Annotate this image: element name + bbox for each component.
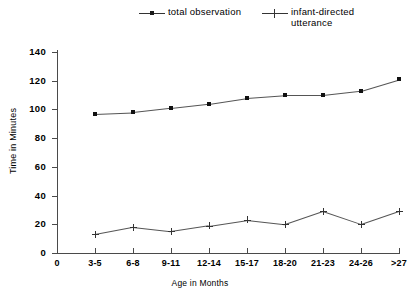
series-line-segment xyxy=(133,108,171,113)
series-line-segment xyxy=(361,79,399,91)
y-tick xyxy=(52,196,57,197)
data-point-marker-square xyxy=(245,96,249,100)
series-line-segment xyxy=(285,211,323,225)
data-point-marker-plus xyxy=(320,211,327,212)
data-point-marker-plus xyxy=(95,231,96,238)
x-tick xyxy=(57,248,58,254)
y-axis-line xyxy=(57,50,58,254)
legend-label-infant-directed-utterance: infant-directed utterance xyxy=(288,6,354,28)
y-tick xyxy=(52,52,57,53)
x-tick xyxy=(171,248,172,254)
y-tick-label: 0 xyxy=(4,247,46,258)
data-point-marker-plus xyxy=(130,227,137,228)
series-line-segment xyxy=(209,98,247,105)
y-tick xyxy=(52,138,57,139)
series-line-segment xyxy=(209,220,247,227)
x-tick-label: >27 xyxy=(376,258,411,268)
x-tick xyxy=(285,248,286,254)
legend-entry-total-observation: total observation xyxy=(139,6,241,19)
data-point-marker-square xyxy=(283,93,287,97)
data-point-marker-plus xyxy=(282,224,289,225)
chart-legend: total observation infant-directed uttera… xyxy=(0,2,405,38)
y-tick xyxy=(52,224,57,225)
data-point-marker-plus xyxy=(244,220,251,221)
data-point-marker-plus xyxy=(168,231,175,232)
data-point-marker-plus xyxy=(361,221,362,228)
data-point-marker-plus xyxy=(396,211,403,212)
x-tick xyxy=(361,248,362,254)
data-point-marker-plus xyxy=(171,228,172,235)
series-line-segment xyxy=(171,226,209,233)
x-tick xyxy=(133,248,134,254)
series-line-segment xyxy=(285,95,323,96)
x-axis-title: Age in Months xyxy=(130,278,270,288)
data-point-marker-square xyxy=(93,112,97,116)
y-tick-label: 40 xyxy=(4,190,46,201)
data-point-marker-square xyxy=(359,89,363,93)
x-tick xyxy=(399,248,400,254)
y-tick-label: 100 xyxy=(4,103,46,114)
data-point-marker-plus xyxy=(206,226,213,227)
y-tick xyxy=(52,167,57,168)
series-line-segment xyxy=(95,112,133,114)
data-point-marker-plus xyxy=(133,224,134,231)
data-point-marker-square xyxy=(397,77,401,81)
y-tick xyxy=(52,109,57,110)
y-tick-label: 140 xyxy=(4,46,46,57)
legend-marker-plus-icon xyxy=(262,8,288,19)
y-tick-label: 80 xyxy=(4,132,46,143)
x-tick xyxy=(247,248,248,254)
legend-label-total-observation: total observation xyxy=(165,6,241,17)
data-point-marker-plus xyxy=(399,208,400,215)
series-line-segment xyxy=(323,91,361,96)
data-point-marker-plus xyxy=(358,224,365,225)
data-point-marker-square xyxy=(207,102,211,106)
series-line-segment xyxy=(247,220,285,225)
x-tick xyxy=(209,248,210,254)
x-axis-line xyxy=(57,253,400,254)
series-line-segment xyxy=(323,211,361,225)
legend-entry-infant-directed-utterance: infant-directed utterance xyxy=(262,6,354,28)
y-tick-label: 60 xyxy=(4,161,46,172)
data-point-marker-plus xyxy=(323,208,324,215)
y-tick-label: 20 xyxy=(4,218,46,229)
data-point-marker-square xyxy=(169,106,173,110)
series-line-segment xyxy=(133,227,171,232)
data-point-marker-plus xyxy=(92,234,99,235)
data-point-marker-plus xyxy=(209,222,210,229)
series-line-segment xyxy=(361,211,399,225)
series-line-segment xyxy=(95,227,133,235)
series-line-segment xyxy=(171,104,209,109)
legend-marker-filled-square-icon xyxy=(139,8,165,19)
data-point-marker-plus xyxy=(247,216,248,223)
y-tick-label: 120 xyxy=(4,75,46,86)
data-point-marker-plus xyxy=(285,221,286,228)
x-tick xyxy=(95,248,96,254)
x-tick xyxy=(323,248,324,254)
series-line-segment xyxy=(247,95,285,99)
y-tick xyxy=(52,81,57,82)
data-point-marker-square xyxy=(131,110,135,114)
data-point-marker-square xyxy=(321,93,325,97)
